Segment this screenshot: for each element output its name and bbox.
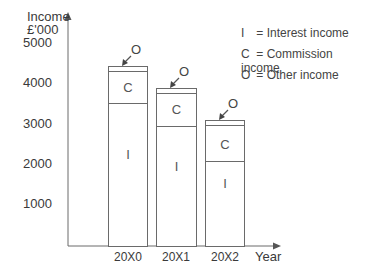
x-axis-title: Year bbox=[255, 249, 281, 264]
y-tick-4000: 4000 bbox=[2, 75, 52, 90]
legend-text: = Other income bbox=[256, 68, 338, 82]
bar-20x0: C I bbox=[108, 66, 148, 247]
bar-20x2-c-label: C bbox=[206, 137, 244, 152]
legend-key: O bbox=[241, 68, 253, 82]
legend-text: = Interest income bbox=[256, 26, 348, 40]
legend-item-interest: I = Interest income bbox=[241, 26, 349, 40]
x-label-20x2: 20X2 bbox=[200, 250, 250, 264]
bar-20x1: C I bbox=[156, 88, 197, 247]
bar-20x2-o-divider bbox=[206, 125, 244, 126]
legend-key: I bbox=[241, 26, 253, 40]
y-tick-1000: 1000 bbox=[2, 196, 52, 211]
bar-20x0-c-label: C bbox=[109, 80, 147, 95]
bar-20x1-c-label: C bbox=[157, 102, 196, 117]
bar-20x1-o-label: O bbox=[179, 64, 189, 79]
bar-20x1-c-divider bbox=[157, 126, 196, 127]
bar-20x1-i-label: I bbox=[157, 159, 196, 174]
bar-20x0-o-divider bbox=[109, 71, 147, 72]
bar-20x2: C I bbox=[205, 120, 245, 247]
x-label-20x1: 20X1 bbox=[151, 250, 201, 264]
bar-20x0-o-label: O bbox=[131, 42, 141, 57]
bar-20x2-c-divider bbox=[206, 161, 244, 162]
bar-20x2-i-label: I bbox=[206, 176, 244, 191]
bar-20x1-o-divider bbox=[157, 93, 196, 94]
y-tick-2000: 2000 bbox=[2, 156, 52, 171]
x-label-20x0: 20X0 bbox=[103, 250, 153, 264]
bar-20x0-i-label: I bbox=[109, 147, 147, 162]
bar-20x0-c-divider bbox=[109, 103, 147, 104]
legend-item-other: O = Other income bbox=[241, 68, 339, 82]
y-tick-5000: 5000 bbox=[2, 35, 52, 50]
y-tick-3000: 3000 bbox=[2, 116, 52, 131]
bar-20x2-o-label: O bbox=[228, 96, 238, 111]
legend-key: C bbox=[241, 47, 253, 61]
